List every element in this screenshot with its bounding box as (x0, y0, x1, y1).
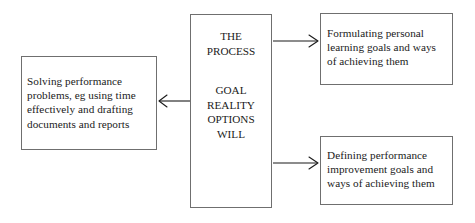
process-heading-line-1: THE (191, 29, 271, 44)
grow-stage-options: OPTIONS (191, 112, 271, 127)
top-right-outcome-box: Formulating personal learning goals and … (320, 13, 453, 85)
bottom-right-outcome-box: Defining performance improvement goals a… (320, 136, 453, 205)
left-outcome-box: Solving performance problems, eg using t… (21, 56, 157, 150)
arrow-right-top-icon (272, 33, 320, 49)
grow-stage-will: WILL (191, 127, 271, 142)
arrow-right-bottom-icon (272, 155, 320, 171)
bottom-right-outcome-text: Defining performance improvement goals a… (321, 148, 452, 191)
process-heading-line-2: PROCESS (191, 44, 271, 59)
diagram-canvas: Solving performance problems, eg using t… (0, 0, 475, 223)
left-outcome-text: Solving performance problems, eg using t… (22, 74, 156, 131)
grow-stage-reality: REALITY (191, 98, 271, 113)
arrow-left-icon (157, 93, 191, 109)
top-right-outcome-text: Formulating personal learning goals and … (321, 26, 452, 69)
grow-stage-goal: GOAL (191, 83, 271, 98)
process-box: THE PROCESS GOAL REALITY OPTIONS WILL (190, 14, 272, 208)
process-heading: THE PROCESS (191, 29, 271, 58)
grow-stage-list: GOAL REALITY OPTIONS WILL (191, 83, 271, 141)
